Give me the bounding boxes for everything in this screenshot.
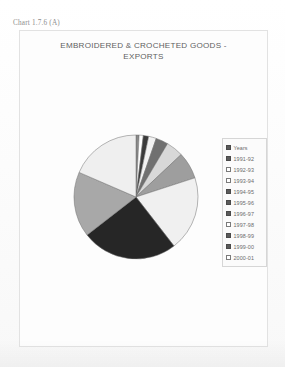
legend-item[interactable]: 1996-97 xyxy=(226,208,264,219)
chart-caption: Chart 1.7.6 (A) xyxy=(13,19,60,27)
legend-label: 1996-97 xyxy=(234,211,254,217)
legend-item[interactable]: 1997-98 xyxy=(226,219,264,230)
legend-swatch xyxy=(226,244,231,249)
legend-swatch xyxy=(226,145,231,150)
chart-legend: Years1991-921992-931993-941994-951995-96… xyxy=(222,138,267,267)
legend-item[interactable]: Years xyxy=(226,142,264,153)
legend-label: 1992-93 xyxy=(234,167,254,173)
legend-item[interactable]: 1999-00 xyxy=(226,241,264,252)
legend-swatch xyxy=(226,233,231,238)
legend-label: 1998-99 xyxy=(234,233,254,239)
legend-swatch xyxy=(226,211,231,216)
legend-label: 1993-94 xyxy=(234,178,254,184)
legend-swatch xyxy=(226,167,231,172)
legend-item[interactable]: 1993-94 xyxy=(226,175,264,186)
legend-swatch xyxy=(226,255,231,260)
legend-swatch xyxy=(226,189,231,194)
legend-item[interactable]: 1991-92 xyxy=(226,153,264,164)
legend-label: 2000-01 xyxy=(234,255,254,261)
legend-swatch xyxy=(226,156,231,161)
legend-label: 1995-96 xyxy=(234,200,254,206)
legend-item[interactable]: 1995-96 xyxy=(226,197,264,208)
chart-frame: EMBROIDERED & CROCHETED GOODS - EXPORTS … xyxy=(19,30,268,347)
legend-swatch xyxy=(226,200,231,205)
legend-label: 1991-92 xyxy=(234,156,254,162)
legend-label: 1999-00 xyxy=(234,244,254,250)
document-page: Chart 1.7.6 (A) EMBROIDERED & CROCHETED … xyxy=(0,0,285,367)
legend-swatch xyxy=(226,178,231,183)
pie-slices xyxy=(74,135,198,259)
legend-item[interactable]: 1998-99 xyxy=(226,230,264,241)
legend-item[interactable]: 1992-93 xyxy=(226,164,264,175)
legend-item[interactable]: 1994-95 xyxy=(226,186,264,197)
legend-swatch xyxy=(226,222,231,227)
legend-label: Years xyxy=(234,145,248,151)
legend-label: 1994-95 xyxy=(234,189,254,195)
legend-label: 1997-98 xyxy=(234,222,254,228)
legend-item[interactable]: 2000-01 xyxy=(226,252,264,263)
